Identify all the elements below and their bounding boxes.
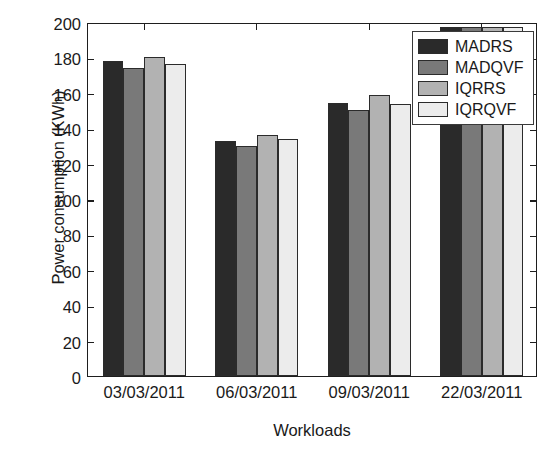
bar	[257, 135, 278, 376]
bar	[348, 110, 369, 376]
bar	[369, 95, 390, 376]
y-tick-label: 160	[53, 85, 81, 104]
y-tick-mark	[88, 165, 94, 166]
legend-item[interactable]: IQRRS	[418, 78, 528, 99]
legend-item[interactable]: MADRS	[418, 36, 528, 57]
bar	[278, 139, 299, 376]
legend-swatch-icon	[418, 39, 448, 54]
y-tick-mark-right	[530, 165, 536, 166]
x-tick-label: 22/03/2011	[441, 383, 522, 402]
y-tick-mark	[88, 271, 94, 272]
x-tick-mark-top	[369, 24, 370, 30]
bar	[236, 146, 257, 376]
legend-item[interactable]: IQRQVF	[418, 99, 528, 120]
y-tick-mark-right	[530, 307, 536, 308]
y-tick-mark-right	[530, 200, 536, 201]
y-tick-mark	[88, 342, 94, 343]
y-tick-label: 60	[63, 262, 81, 281]
bar	[103, 61, 124, 376]
legend-swatch-icon	[418, 102, 448, 117]
y-tick-label: 180	[53, 50, 81, 69]
y-tick-mark	[88, 130, 94, 131]
legend-swatch-icon	[418, 60, 448, 75]
y-tick-mark	[88, 59, 94, 60]
y-tick-mark	[88, 200, 94, 201]
y-tick-label: 140	[53, 121, 81, 140]
legend-swatch-icon	[418, 81, 448, 96]
y-tick-mark-right	[530, 130, 536, 131]
x-tick-label: 03/03/2011	[104, 383, 185, 402]
y-tick-mark-right	[530, 271, 536, 272]
y-tick-label: 20	[63, 333, 81, 352]
x-tick-mark-top	[256, 24, 257, 30]
x-tick-mark-top	[144, 24, 145, 30]
y-tick-label: 120	[53, 156, 81, 175]
legend-label: MADRS	[455, 39, 513, 55]
legend-label: MADQVF	[455, 60, 523, 76]
y-tick-mark	[88, 236, 94, 237]
bar	[215, 141, 236, 376]
bar	[165, 64, 186, 376]
y-tick-mark	[88, 307, 94, 308]
bar	[390, 104, 411, 376]
y-tick-mark-right	[530, 236, 536, 237]
legend-label: IQRQVF	[455, 102, 516, 118]
y-tick-label: 0	[72, 369, 81, 388]
y-tick-label: 40	[63, 298, 81, 317]
legend-item[interactable]: MADQVF	[418, 57, 528, 78]
x-axis-title: Workloads	[87, 421, 537, 440]
x-tick-label: 06/03/2011	[216, 383, 297, 402]
x-tick-label: 09/03/2011	[329, 383, 410, 402]
y-tick-mark-right	[530, 342, 536, 343]
bar	[328, 103, 349, 376]
y-tick-mark	[88, 94, 94, 95]
bar	[144, 57, 165, 376]
chart-legend: MADRSMADQVFIQRRSIQRQVF	[412, 31, 534, 125]
bar	[123, 68, 144, 376]
y-tick-label: 80	[63, 227, 81, 246]
y-tick-label: 200	[53, 15, 81, 34]
bar-chart-figure: Power consumption (KWh) 0204060801001201…	[0, 0, 559, 453]
legend-label: IQRRS	[455, 81, 506, 97]
y-tick-label: 100	[53, 192, 81, 211]
